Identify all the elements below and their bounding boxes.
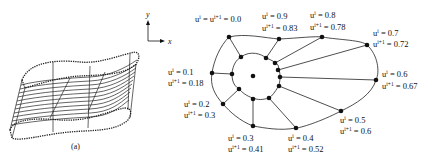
node-0.1 (210, 71, 215, 76)
label-n08-ui1: ui+1 = 0.78 (310, 22, 346, 32)
label-n05-ui1: ui+1 = 0.6 (340, 126, 371, 136)
node-0.8 (320, 35, 325, 40)
arrow-right-icon (160, 39, 165, 43)
node-labels: ui = ui+1 = 0.0 ui = 0.9 ui+1 = 0.83 ui … (168, 10, 418, 154)
label-n00: ui = ui+1 = 0.0 (195, 14, 241, 24)
x-axis-label: x (167, 37, 172, 46)
label-n02-ui: ui = 0.2 (184, 99, 209, 109)
node-0.0 (227, 35, 232, 40)
node-0.7 (365, 43, 370, 48)
figure-canvas: (a) y x (0, 0, 426, 161)
center-node (251, 74, 256, 79)
label-n08-ui: ui = 0.8 (310, 10, 335, 20)
node-0.2 (221, 102, 226, 107)
label-n04-ui1: ui+1 = 0.52 (288, 144, 324, 154)
label-n07-ui: ui = 0.7 (373, 28, 398, 38)
wireframe-surface (10, 52, 139, 139)
label-n03-ui1: ui+1 = 0.41 (228, 144, 264, 154)
label-n02-ui1: ui+1 = 0.3 (184, 110, 215, 120)
label-n09-ui: ui = 0.9 (262, 11, 287, 21)
label-n04-ui: ui = 0.4 (288, 133, 314, 143)
label-n05-ui: ui = 0.5 (340, 115, 365, 125)
label-n03-ui: ui = 0.3 (228, 133, 253, 143)
node-0.9 (277, 37, 282, 42)
node-0.5 (339, 109, 344, 114)
label-n07-ui1: ui+1 = 0.72 (373, 39, 409, 49)
arrow-up-icon (146, 20, 150, 25)
node-0.3 (251, 124, 256, 129)
y-axis-label: y (145, 10, 150, 19)
label-n06-ui1: ui+1 = 0.67 (382, 81, 418, 91)
label-n01-ui: ui = 0.1 (168, 67, 193, 77)
label-n09-ui1: ui+1 = 0.83 (262, 23, 298, 33)
panel-a-caption: (a) (71, 142, 80, 151)
node-0.6 (374, 78, 379, 83)
node-0.4 (294, 126, 299, 131)
axes-indicator: y x (145, 10, 172, 46)
label-n06-ui: ui = 0.6 (382, 69, 407, 79)
label-n01-ui1: ui+1 = 0.18 (168, 78, 204, 88)
